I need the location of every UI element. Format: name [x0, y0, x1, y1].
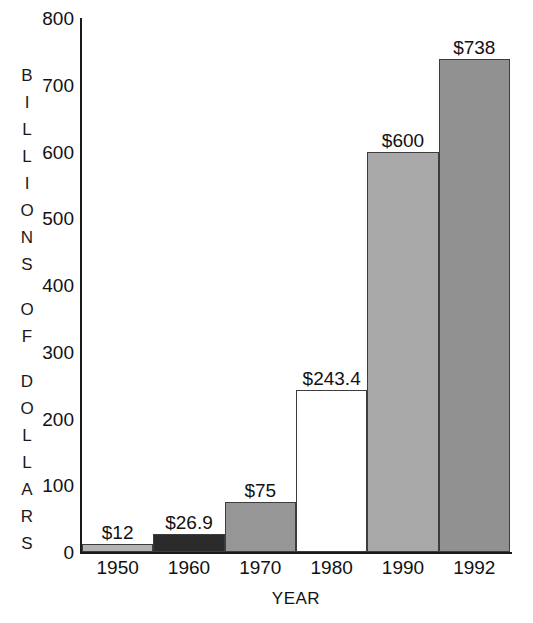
bar[interactable]: $75: [225, 502, 296, 552]
y-axis-tick-label: 700: [28, 75, 74, 94]
x-axis-title: YEAR: [82, 589, 510, 609]
x-axis-line: [80, 552, 512, 554]
y-axis-tick-label: 500: [28, 209, 74, 228]
x-axis-tick-label: 1960: [153, 558, 224, 577]
bar[interactable]: $26.9: [153, 534, 224, 552]
bar-value-label: $75: [244, 481, 276, 500]
y-axis-tick-label: 400: [28, 276, 74, 295]
y-axis-tick-label: 200: [28, 409, 74, 428]
y-axis-tick-label: 600: [28, 142, 74, 161]
y-axis-tick-labels: 0100200300400500600700800: [26, 0, 74, 623]
y-axis-tick-label: 800: [28, 9, 74, 28]
bar-value-label: $243.4: [303, 369, 361, 388]
bars-container: $12$26.9$75$243.4$600$738: [82, 18, 510, 552]
y-axis-tick-label: 100: [28, 476, 74, 495]
x-axis-tick-label: 1970: [225, 558, 296, 577]
bar[interactable]: $243.4: [296, 390, 367, 552]
bar-value-label: $12: [102, 523, 134, 542]
bar-chart-figure: BILLIONSOFDOLLARS 0100200300400500600700…: [0, 0, 533, 623]
y-axis-tick-label: 300: [28, 342, 74, 361]
x-axis-tick-label: 1990: [367, 558, 438, 577]
x-axis-tick-label: 1950: [82, 558, 153, 577]
x-axis-tick-labels: 195019601970198019901992: [82, 558, 510, 586]
plot-area: $12$26.9$75$243.4$600$738: [80, 18, 512, 554]
x-axis-tick-label: 1980: [296, 558, 367, 577]
bar[interactable]: $600: [367, 152, 438, 553]
bar[interactable]: $12: [82, 544, 153, 552]
bar-value-label: $26.9: [165, 513, 213, 532]
bar-value-label: $738: [453, 38, 495, 57]
bar-value-label: $600: [382, 131, 424, 150]
bar[interactable]: $738: [439, 59, 510, 552]
y-axis-tick-label: 0: [28, 543, 74, 562]
x-axis-tick-label: 1992: [439, 558, 510, 577]
